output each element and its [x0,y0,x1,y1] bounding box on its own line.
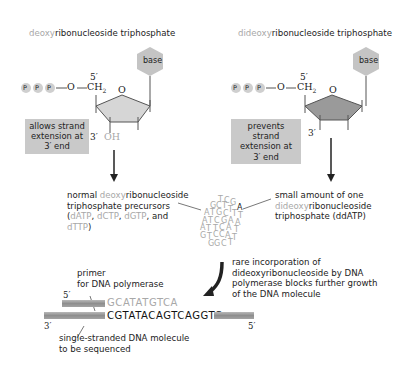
primer-strand-bar [62,300,105,307]
primer-sequence: GCATATGTCA [107,297,178,308]
dideoxy-title: dideoxyribonucleoside triphosphate [238,28,392,39]
base-label-right: base [359,56,378,67]
three-prime-label-right: 3′ [308,128,316,139]
text: primer [77,268,164,279]
oh-label: OH [104,132,120,143]
text: triphosphate precursors [67,201,189,212]
template-three-prime: 3′ [44,321,51,332]
ch2-text: CH [87,81,103,92]
precursors-label: normal deoxyribonucleoside triphosphate … [67,190,189,232]
template-strand-bar-right [214,312,254,319]
text: ribonucleoside [309,201,372,211]
text: polymerase blocks further growth [232,278,377,289]
text: of the DNA molecule [232,289,377,300]
ddatp-label: small amount of one dideoxyribonucleosid… [275,190,372,222]
callout-line: 3′ end [234,152,298,162]
text: single-stranded DNA molecule [59,333,189,344]
nucleotide-letter: C [221,240,227,248]
text: deoxy [100,190,126,200]
arrow-down-icon [110,174,118,182]
title-prefix: dideoxy [238,28,272,38]
p-label: P [35,83,39,94]
text: rare incorporation of [232,257,377,268]
p-label: P [257,83,261,94]
callout-line: prevents strand [234,121,298,141]
text: small amount of one [275,190,372,201]
callout-prevents-extension: prevents strand extension at 3′ end [231,119,301,164]
nucleotide-letter: C [213,231,219,239]
text: normal [67,190,100,200]
primer-five-prime: 5′ [63,290,70,301]
p-label: P [245,83,249,94]
text: dGTP [124,211,146,221]
ch2-sub: 2 [313,87,317,94]
template-sequence: CGTATACAGTCAGGTC [107,310,222,321]
callout-line: extension at [234,141,298,151]
text: to be sequenced [59,344,189,355]
template-five-prime: 5′ [248,321,255,332]
linker-o-right: O [277,82,285,93]
p-label: P [47,83,51,94]
text: dTTP [67,222,88,232]
ch2-left: CH2 [87,82,106,96]
nucleotide-letter: T [228,239,233,247]
text: triphosphate (ddATP) [275,211,372,222]
text: dideoxy [275,201,309,211]
text: ribonucleoside [126,190,189,200]
ring-o-left: O [118,85,126,96]
base-label-left: base [143,56,162,67]
text: dideoxyribonucleoside by DNA [232,268,377,279]
text: dCTP [97,211,119,221]
text: for DNA polymerase [77,279,164,290]
ch2-right: CH2 [297,82,316,96]
three-prime-label-left: 3′ [90,132,98,143]
callout-line: 3′ end [28,141,86,151]
template-strand-bar-left [44,312,105,319]
callout-line: extension at [28,131,86,141]
ch2-sub: 2 [103,87,107,94]
callout-line: allows strand [28,121,86,131]
primer-label: primer for DNA polymerase [77,268,164,289]
callout-allows-extension: allows strand extension at 3′ end [25,119,89,154]
incorporation-label: rare incorporation of dideoxyribonucleos… [232,257,377,299]
text: dATP [70,211,91,221]
p-label: P [23,83,27,94]
sugar-ring-right [305,95,362,120]
nucleotide-cluster: T C G A G C T T A T G C T T A T C G A A … [196,196,256,248]
template-label: single-stranded DNA molecule to be seque… [59,333,189,354]
p-label: P [233,83,237,94]
ch2-text: CH [297,81,313,92]
nucleotide-letter: G [200,232,206,240]
sugar-ring-left [96,95,150,122]
nucleotide-letter: G [214,240,220,248]
ring-o-right: O [329,85,337,96]
nucleotide-letter: C [219,231,225,239]
arrow-down-icon [327,174,335,182]
text: , and [147,211,169,221]
text: ) [88,222,91,232]
title-suffix: ribonucleoside triphosphate [272,28,392,38]
linker-o-left: O [67,82,75,93]
